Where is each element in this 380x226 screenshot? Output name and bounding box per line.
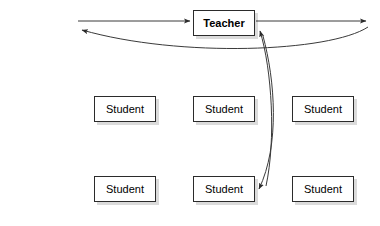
node-student-mid-center[interactable]: Student xyxy=(193,96,255,122)
node-student-mid-left-label: Student xyxy=(106,104,144,115)
node-student-mid-right-label: Student xyxy=(304,104,342,115)
node-student-bottom-left-label: Student xyxy=(106,184,144,195)
node-student-mid-right[interactable]: Student xyxy=(292,96,354,122)
diagram-canvas: Teacher Student Student Student Student … xyxy=(0,0,380,226)
node-teacher[interactable]: Teacher xyxy=(193,10,255,36)
node-student-bottom-center[interactable]: Student xyxy=(193,176,255,202)
edge-student-to-teacher xyxy=(260,31,272,186)
node-student-bottom-center-label: Student xyxy=(205,184,243,195)
node-student-bottom-right[interactable]: Student xyxy=(292,176,354,202)
node-student-bottom-left[interactable]: Student xyxy=(94,176,156,202)
node-student-mid-center-label: Student xyxy=(205,104,243,115)
node-teacher-label: Teacher xyxy=(203,18,244,29)
node-student-bottom-right-label: Student xyxy=(304,184,342,195)
node-student-mid-left[interactable]: Student xyxy=(94,96,156,122)
